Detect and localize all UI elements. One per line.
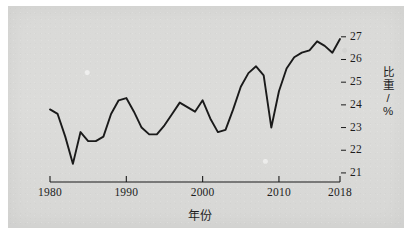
y-axis-title: 比重/% [378, 66, 394, 118]
y-axis-ticks [341, 37, 346, 173]
chart-figure: 27262524232221 19801990200020102018 年份 比… [0, 0, 412, 236]
x-tick-label: 2010 [267, 186, 291, 198]
y-tick-label: 24 [350, 98, 362, 110]
y-tick-label: 27 [350, 30, 362, 42]
x-tick-label: 1990 [114, 186, 138, 198]
x-axis-ticks [50, 176, 340, 182]
y-tick-label: 23 [350, 121, 362, 133]
x-axis-group [50, 176, 340, 182]
x-tick-label: 1980 [38, 186, 62, 198]
y-tick-label: 21 [350, 166, 362, 178]
x-axis-title: 年份 [188, 206, 212, 223]
data-series-line [50, 39, 340, 164]
y-tick-label: 25 [350, 75, 362, 87]
y-tick-label: 22 [350, 143, 362, 155]
y-axis-group [341, 37, 346, 173]
x-tick-label: 2000 [191, 186, 215, 198]
x-tick-label: 2018 [328, 186, 352, 198]
y-tick-label: 26 [350, 52, 362, 64]
